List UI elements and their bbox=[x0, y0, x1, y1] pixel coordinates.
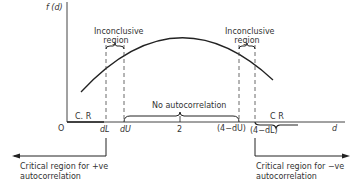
cr-right-label: C R bbox=[270, 112, 284, 121]
no-autocorrelation-label: No autocorrelation bbox=[152, 101, 226, 110]
left-arrowhead-icon bbox=[12, 154, 20, 159]
tick-label-dU: dU bbox=[120, 125, 131, 134]
left-arrow-line bbox=[14, 138, 106, 156]
right-arrowhead-icon bbox=[342, 154, 350, 159]
tick-label-4-dU: (4−dU) bbox=[217, 124, 246, 133]
cr-left-label: C. R bbox=[75, 112, 91, 121]
right-arrow-label-line1: Critical region for −ve bbox=[256, 162, 344, 171]
right-arrow-label-line2: autocorrelation bbox=[256, 172, 317, 181]
left-arrow-label-line2: autocorrelation bbox=[20, 172, 81, 181]
tick-label-dL: dL bbox=[100, 125, 110, 134]
y-axis-label: f (d) bbox=[46, 3, 63, 12]
diagram-canvas bbox=[0, 0, 352, 187]
tick-label-4-dL: (4−dL) bbox=[250, 126, 278, 135]
tick-label-2: 2 bbox=[177, 125, 182, 134]
inconclusive-right-label: Inconclusive region bbox=[225, 27, 269, 45]
left-arrow-label-line1: Critical region for +ve bbox=[20, 162, 108, 171]
inconclusive-left-label: Inconclusive region bbox=[94, 27, 138, 45]
x-axis-label: d bbox=[332, 124, 337, 133]
right-arrow-line bbox=[255, 138, 346, 156]
origin-label: O bbox=[58, 124, 64, 133]
no-autocorrelation-brace bbox=[124, 112, 239, 122]
